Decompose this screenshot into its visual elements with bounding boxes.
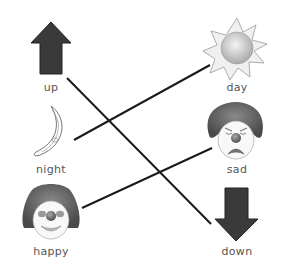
- up-arrow-icon: [31, 22, 71, 74]
- moon-icon: [34, 106, 62, 156]
- label-night: night: [21, 163, 81, 176]
- down-arrow-icon: [215, 188, 258, 241]
- connection-night-day: [74, 65, 210, 140]
- sun-icon: [203, 18, 267, 80]
- happy-clown-icon: [22, 184, 79, 239]
- label-day: day: [207, 81, 267, 94]
- matching-diagram: [0, 0, 283, 277]
- label-happy: happy: [21, 245, 81, 258]
- label-up: up: [21, 81, 81, 94]
- connection-up-down: [67, 78, 211, 224]
- connection-happy-sad: [82, 148, 212, 208]
- label-down: down: [207, 245, 267, 258]
- sad-clown-icon: [208, 102, 263, 159]
- label-sad: sad: [207, 163, 267, 176]
